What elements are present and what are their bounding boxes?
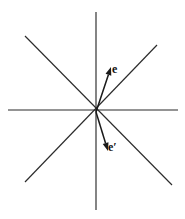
vector-e-shaft [96,75,108,112]
vector-e-prime [96,112,108,151]
vector-e-prime-label: e′ [108,141,117,153]
vector-e-arrowhead [106,67,112,76]
vector-diagram-figure: e e′ [0,0,185,219]
diagonal-sw-ne-axis-line [25,45,157,182]
vector-e-label: e [112,63,117,75]
diagram-canvas [0,0,185,219]
vector-e [96,67,111,112]
